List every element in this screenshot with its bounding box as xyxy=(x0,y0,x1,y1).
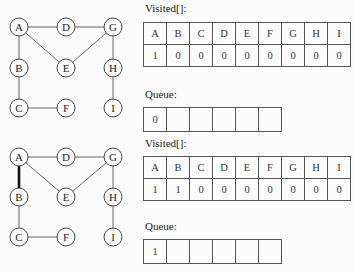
svg-text:E: E xyxy=(63,191,70,203)
visited-header-cell: B xyxy=(167,157,190,179)
queue-table: 0 xyxy=(143,107,282,132)
visited-value-cell: 0 xyxy=(305,179,328,201)
queue-cell xyxy=(190,108,213,132)
visited-header-cell: G xyxy=(282,157,305,179)
visited-value-cell: 0 xyxy=(259,45,282,67)
visited-value-cell: 0 xyxy=(282,45,305,67)
visited-value-cell: 0 xyxy=(259,179,282,201)
node-D: D xyxy=(57,148,75,166)
visited-header-cell: F xyxy=(259,157,282,179)
queue-cell xyxy=(167,108,190,132)
queue-label: Queue: xyxy=(145,220,177,232)
visited-value-cell: 0 xyxy=(167,45,190,67)
node-C: C xyxy=(10,228,28,246)
visited-value-cell: 0 xyxy=(236,179,259,201)
visited-header-cell: G xyxy=(282,23,305,45)
visited-value-cell: 1 xyxy=(144,179,167,201)
visited-header-cell: A xyxy=(144,157,167,179)
visited-header-cell: C xyxy=(190,157,213,179)
visited-header-cell: A xyxy=(144,23,167,45)
visited-table: ABCDEFGHI 110000000 xyxy=(143,156,351,201)
visited-label: Visited[]: xyxy=(145,2,187,14)
visited-header-row: ABCDEFGHI xyxy=(144,157,351,179)
queue-cell xyxy=(167,240,190,264)
svg-text:C: C xyxy=(15,231,22,243)
queue-cell xyxy=(259,240,282,264)
visited-value-cell: 0 xyxy=(328,179,351,201)
visited-header-cell: D xyxy=(213,23,236,45)
node-A: A xyxy=(10,148,28,166)
visited-value-cell: 0 xyxy=(213,45,236,67)
visited-header-cell: H xyxy=(305,157,328,179)
visited-value-cell: 0 xyxy=(282,179,305,201)
queue-label: Queue: xyxy=(145,88,177,100)
visited-header-cell: I xyxy=(328,157,351,179)
svg-text:D: D xyxy=(62,151,70,163)
node-E: E xyxy=(57,188,75,206)
svg-text:G: G xyxy=(109,151,117,163)
queue-cell xyxy=(236,108,259,132)
graph-diagram: ADGBEHCFI xyxy=(0,0,140,273)
svg-text:H: H xyxy=(109,191,117,203)
node-B: B xyxy=(10,188,28,206)
visited-header-cell: H xyxy=(305,23,328,45)
svg-text:I: I xyxy=(111,231,115,243)
visited-header-row: ABCDEFGHI xyxy=(144,23,351,45)
visited-header-cell: I xyxy=(328,23,351,45)
svg-text:A: A xyxy=(15,151,23,163)
visited-value-cell: 1 xyxy=(167,179,190,201)
visited-value-cell: 0 xyxy=(328,45,351,67)
queue-cell xyxy=(190,240,213,264)
visited-value-row: 100000000 xyxy=(144,45,351,67)
queue-cell xyxy=(213,240,236,264)
svg-text:F: F xyxy=(63,231,69,243)
visited-value-cell: 0 xyxy=(305,45,328,67)
visited-value-cell: 0 xyxy=(236,45,259,67)
queue-cell xyxy=(213,108,236,132)
visited-header-cell: F xyxy=(259,23,282,45)
queue-table: 1 xyxy=(143,239,282,264)
visited-header-cell: E xyxy=(236,157,259,179)
node-G: G xyxy=(104,148,122,166)
visited-header-cell: C xyxy=(190,23,213,45)
node-H: H xyxy=(104,188,122,206)
visited-value-row: 110000000 xyxy=(144,179,351,201)
visited-value-cell: 0 xyxy=(190,45,213,67)
queue-row: 1 xyxy=(144,240,282,264)
node-I: I xyxy=(104,228,122,246)
visited-value-cell: 0 xyxy=(213,179,236,201)
visited-label: Visited[]: xyxy=(145,137,187,149)
visited-table: ABCDEFGHI 100000000 xyxy=(143,22,351,67)
visited-value-cell: 0 xyxy=(190,179,213,201)
visited-header-cell: D xyxy=(213,157,236,179)
node-F: F xyxy=(57,228,75,246)
queue-cell: 0 xyxy=(144,108,167,132)
visited-header-cell: B xyxy=(167,23,190,45)
visited-value-cell: 1 xyxy=(144,45,167,67)
visited-header-cell: E xyxy=(236,23,259,45)
queue-cell xyxy=(259,108,282,132)
queue-row: 0 xyxy=(144,108,282,132)
queue-cell: 1 xyxy=(144,240,167,264)
svg-text:B: B xyxy=(15,191,22,203)
queue-cell xyxy=(236,240,259,264)
